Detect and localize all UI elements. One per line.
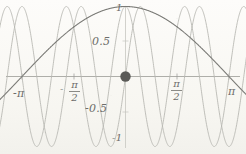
numerator: π bbox=[172, 79, 181, 90]
plot-canvas bbox=[0, 0, 246, 154]
origin-point-marker bbox=[120, 71, 130, 81]
y-axis-label-neg-one: -1 bbox=[112, 133, 122, 143]
x-axis-label-neg-pi: -π bbox=[13, 88, 25, 99]
y-axis-label-one: 1 bbox=[116, 3, 123, 13]
y-axis-label-half: 0.5 bbox=[92, 36, 110, 47]
x-axis-label-pi-over-2: π 2 bbox=[171, 79, 182, 102]
y-axis-label-neg-half: -0.5 bbox=[85, 103, 107, 114]
minus-sign: - bbox=[60, 84, 63, 95]
x-axis-label-pi: π bbox=[228, 86, 236, 97]
denominator: 2 bbox=[172, 92, 180, 103]
x-axis-label-neg-pi-over-2: - π 2 bbox=[69, 80, 80, 103]
numerator: π bbox=[70, 80, 79, 91]
plot-figure: -π π - π 2 π 2 1 0.5 -0.5 -1 bbox=[0, 0, 246, 154]
denominator: 2 bbox=[70, 93, 78, 104]
